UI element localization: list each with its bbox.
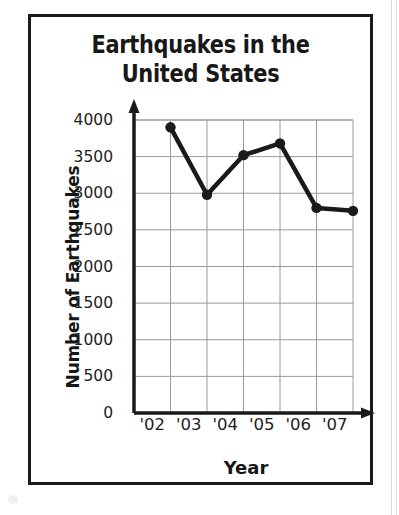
page-edge-rule [391, 0, 392, 515]
page-edge-rule-secondary [396, 0, 397, 515]
data-point-02 [165, 122, 175, 132]
line-chart-plot [31, 17, 370, 482]
data-point-06 [311, 203, 321, 213]
data-point-03 [202, 190, 212, 200]
y-axis-arrowhead [129, 99, 140, 113]
data-point-05 [275, 138, 285, 148]
data-point-04 [238, 150, 248, 160]
data-line [171, 127, 354, 211]
page-smudge [8, 495, 18, 504]
plot-area: 05001000150020002500300035004000 '02'03'… [31, 17, 370, 482]
x-axis-arrowhead [361, 408, 375, 419]
chart-figure: Earthquakes in the United States Number … [28, 14, 373, 485]
data-point-07 [348, 206, 358, 216]
